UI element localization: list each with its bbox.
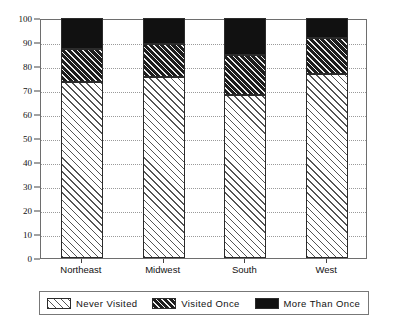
legend-label: Never Visited — [76, 298, 138, 309]
bar-northeast — [61, 18, 103, 258]
bar-west — [306, 18, 348, 258]
legend-label: Visited Once — [181, 298, 240, 309]
y-tick-label: 90 — [23, 39, 32, 48]
bar-south — [224, 18, 266, 258]
x-tick-mark — [81, 259, 82, 263]
bar-segment — [143, 44, 185, 76]
legend-swatch-icon — [152, 298, 176, 309]
y-tick-label: 10 — [23, 231, 32, 240]
bar-segment — [61, 18, 103, 49]
x-tick-label-midwest: Midwest — [145, 264, 180, 275]
bar-segment — [224, 95, 266, 258]
legend-swatch-icon — [255, 298, 279, 309]
bar-segment — [143, 18, 185, 44]
legend-item: Visited Once — [145, 298, 247, 309]
y-tick-label: 20 — [23, 207, 32, 216]
bar-segment — [306, 18, 348, 38]
bar-midwest — [143, 18, 185, 258]
legend-swatch-icon — [47, 298, 71, 309]
x-tick-label-northeast: Northeast — [60, 264, 101, 275]
x-tick-mark — [163, 259, 164, 263]
y-tick-label: 60 — [23, 111, 32, 120]
legend-label: More Than Once — [284, 298, 361, 309]
y-tick-label: 100 — [19, 15, 33, 24]
plot-area — [40, 19, 367, 259]
x-axis: NortheastMidwestSouthWest — [40, 259, 367, 281]
bar-segment — [224, 55, 266, 95]
x-tick-mark — [244, 259, 245, 263]
bar-segment — [224, 18, 266, 55]
y-tick-label: 0 — [28, 255, 33, 264]
bar-segment — [306, 74, 348, 258]
chart-legend: Never VisitedVisited OnceMore Than Once — [39, 291, 369, 315]
y-tick-label: 50 — [23, 135, 32, 144]
x-tick-mark — [326, 259, 327, 263]
bar-segment — [143, 77, 185, 258]
bar-segment — [61, 49, 103, 81]
x-tick-label-west: West — [315, 264, 336, 275]
y-tick-label: 70 — [23, 87, 32, 96]
y-axis: 0102030405060708090100 — [0, 0, 40, 259]
bar-segment — [61, 82, 103, 258]
bar-segment — [306, 38, 348, 74]
stacked-bar-chart: 0102030405060708090100 NortheastMidwestS… — [0, 0, 400, 332]
legend-item: Never Visited — [40, 298, 145, 309]
legend-item: More Than Once — [248, 298, 368, 309]
y-tick-label: 40 — [23, 159, 32, 168]
x-tick-label-south: South — [232, 264, 257, 275]
y-tick-label: 30 — [23, 183, 32, 192]
y-tick-label: 80 — [23, 63, 32, 72]
